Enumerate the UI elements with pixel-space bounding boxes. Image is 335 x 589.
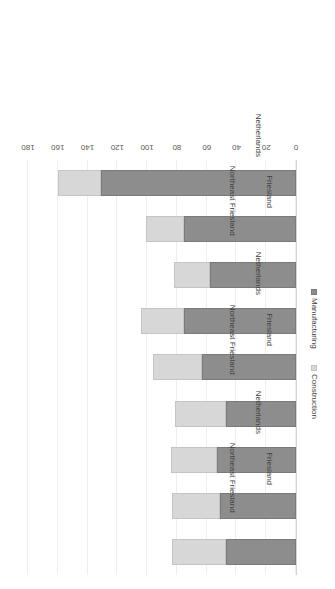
bar-stack[interactable] xyxy=(175,401,296,427)
bar-segment-manufacturing[interactable] xyxy=(184,308,296,334)
gridline xyxy=(116,160,117,575)
bar-segment-construction[interactable] xyxy=(171,447,217,473)
value-axis-tick-label: 80 xyxy=(172,143,181,152)
value-axis-tick-label: 100 xyxy=(140,143,153,152)
category-axis-label: Friesland xyxy=(265,314,274,347)
bar-segment-manufacturing[interactable] xyxy=(184,216,296,242)
bar-stack[interactable] xyxy=(58,170,296,196)
category-axis-label: Friesland xyxy=(265,175,274,208)
legend-swatch-construction xyxy=(311,365,317,371)
category-axis-label: Netherlands xyxy=(254,252,263,295)
bar-segment-construction[interactable] xyxy=(58,170,101,196)
category-axis-label: Northeast Friesland xyxy=(228,304,237,374)
category-axis-label: Northeast Friesland xyxy=(228,166,237,236)
bar-segment-construction[interactable] xyxy=(172,539,226,565)
bar-stack[interactable] xyxy=(174,262,296,288)
legend-swatch-manufacturing xyxy=(311,289,317,295)
value-axis-tick-label: 180 xyxy=(21,143,34,152)
category-axis-label: Netherlands xyxy=(254,114,263,157)
bar-stack[interactable] xyxy=(146,216,296,242)
legend-item-manufacturing[interactable]: Manufacturing xyxy=(310,289,319,349)
category-axis-label: Northeast Friesland xyxy=(228,443,237,513)
value-axis-tick-label: 140 xyxy=(81,143,94,152)
bar-segment-manufacturing[interactable] xyxy=(210,262,296,288)
legend-label: Construction xyxy=(310,374,319,419)
value-axis-baseline xyxy=(296,160,297,575)
bar-segment-construction[interactable] xyxy=(153,355,202,381)
plot-area xyxy=(28,160,296,575)
gridline xyxy=(87,160,88,575)
bar-segment-construction[interactable] xyxy=(172,493,220,519)
value-axis-tick-label: 60 xyxy=(202,143,211,152)
bar-segment-construction[interactable] xyxy=(141,308,184,334)
gridline xyxy=(27,160,28,575)
bar-segment-manufacturing[interactable] xyxy=(226,539,296,565)
bar-segment-construction[interactable] xyxy=(146,216,185,242)
value-axis-tick-label: 120 xyxy=(111,143,124,152)
legend-item-construction[interactable]: Construction xyxy=(310,365,319,419)
gridline xyxy=(57,160,58,575)
bar-segment-construction[interactable] xyxy=(175,401,226,427)
value-axis-tick-label: 40 xyxy=(232,143,241,152)
bar-segment-manufacturing[interactable] xyxy=(202,355,296,381)
category-axis-label: Friesland xyxy=(265,452,274,485)
bar-stack[interactable] xyxy=(172,539,296,565)
rotated-figure-container: 020406080100120140160180 Northeast Fries… xyxy=(0,0,335,589)
value-axis-tick-label: 0 xyxy=(294,143,298,152)
chart-canvas: 020406080100120140160180 Northeast Fries… xyxy=(0,0,335,589)
bar-stack[interactable] xyxy=(153,355,296,381)
value-axis-tick-label: 160 xyxy=(51,143,64,152)
legend-label: Manufacturing xyxy=(310,298,319,349)
category-axis-label: Netherlands xyxy=(254,391,263,434)
bar-segment-construction[interactable] xyxy=(174,262,210,288)
